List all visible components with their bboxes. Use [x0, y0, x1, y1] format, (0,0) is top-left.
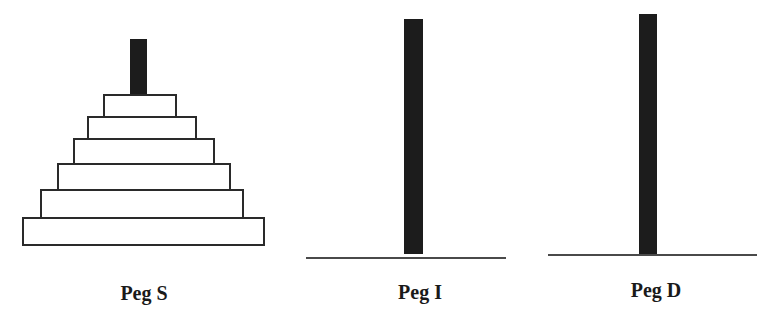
disk-1: [103, 94, 177, 118]
tower-of-hanoi-diagram: Peg S Peg I Peg D: [0, 0, 774, 324]
peg-s-label: Peg S: [104, 283, 184, 303]
peg-d-rod: [639, 14, 657, 254]
peg-i-rod: [404, 19, 423, 254]
disk-3: [73, 138, 215, 165]
peg-i-base-line: [306, 257, 506, 259]
disk-6: [22, 217, 265, 246]
disk-5: [40, 189, 244, 219]
peg-d-label: Peg D: [616, 280, 696, 300]
peg-d-base-line: [548, 254, 757, 256]
peg-i-label: Peg I: [380, 282, 460, 302]
peg-s-rod: [130, 39, 147, 95]
disk-4: [57, 163, 231, 192]
